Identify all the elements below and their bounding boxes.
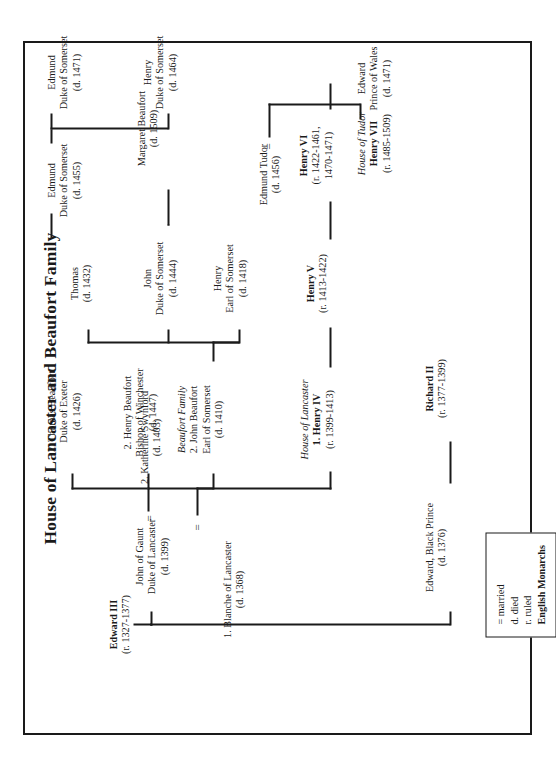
node-edward-iii: Edward III (r. 1327-1377) (107, 569, 132, 679)
connector-john-beaufort-out (212, 341, 214, 361)
node-henry-vi-reign-2: 1470-1471) (322, 109, 334, 201)
label-house-of-lancaster: House of Lancaster (298, 367, 310, 471)
node-richard-ii-reign: (r. 1377-1399) (435, 335, 447, 441)
connector-john-beaufort-bus-lower (212, 341, 239, 343)
node-thomas-beaufort-name: 2. Thomas Beaufort (45, 347, 57, 475)
legend-english-monarchs: English Monarchs (534, 545, 548, 624)
legend-died: d. died (507, 545, 521, 624)
node-black-prince-name: Edward, Black Prince (423, 483, 435, 611)
node-margaret-name: Margaret Beaufort (135, 67, 147, 189)
connector-beaufort-children-bus (71, 487, 147, 489)
node-henry-beaufort-title: Bishop of Winchester (133, 347, 145, 477)
node-richard-ii-name: Richard II (423, 335, 435, 441)
label-beaufort-family: Beaufort Family (175, 361, 187, 477)
node-henry-vi: Henry VI (r. 1422-1461, 1470-1471) (297, 109, 334, 201)
node-henry-earl-death: (d. 1418) (236, 225, 248, 331)
connector-tudor-marriage (268, 103, 270, 137)
node-john-beaufort: Beaufort Family 2. John Beaufort Earl of… (175, 361, 225, 477)
node-edmund-1471-name: Edmund (45, 19, 57, 125)
node-black-prince-death: (d. 1376) (435, 483, 447, 611)
node-edmund-tudor-death: (d. 1456) (269, 113, 281, 235)
node-henry-earl-of-somerset: Henry Earl of Somerset (d. 1418) (211, 225, 248, 331)
node-henry-vii-reign: (r. 1485-1509) (380, 93, 392, 193)
node-margaret-beaufort: Margaret Beaufort (d. 1509) (135, 67, 160, 189)
node-blanche-name: 1. Blanche of Lancaster (221, 523, 233, 655)
node-blanche-of-lancaster: 1. Blanche of Lancaster (d. 1368) (221, 523, 246, 655)
node-henry-vii: House of Tudor Henry VII (r. 1485-1509) (355, 93, 392, 193)
node-john-duke-death: (d. 1444) (166, 225, 178, 331)
node-john-duke-title: Duke of Somerset (153, 225, 165, 331)
node-henry-earl-title: Earl of Somerset (223, 225, 235, 331)
connector-edward-iii-children-bus (150, 623, 450, 625)
node-henry-beaufort-death: (d. 1447) (146, 347, 158, 477)
node-edmund-1455-death: (d. 1455) (70, 127, 82, 233)
connector-to-thomas-1432 (87, 329, 89, 343)
legend-ruled: r. ruled (520, 545, 534, 624)
node-henry-v: Henry V (r. 1413-1422) (304, 239, 329, 327)
node-henry-v-name: Henry V (304, 239, 316, 327)
node-thomas-1432: Thomas (d. 1432) (68, 237, 93, 329)
connector-beaufort-bus-lower (147, 487, 213, 489)
legend-married: = married (493, 545, 507, 624)
connector-blanche-children-bus (196, 487, 331, 489)
node-thomas-1432-death: (d. 1432) (80, 237, 92, 329)
chart-page-frame: House of Lancaster and Beaufort Family E… (23, 41, 532, 735)
node-edward-black-prince: Edward, Black Prince (d. 1376) (423, 483, 448, 611)
node-edmund-1471-title: Duke of Somerset (57, 19, 69, 125)
node-edmund-1471: Edmund Duke of Somerset (d. 1471) (45, 19, 82, 125)
connector-katherine-marriage (147, 487, 149, 511)
legend-box: = married d. died r. ruled English Monar… (485, 532, 556, 637)
connector-edmund-1455-stub (50, 129, 52, 143)
node-john-of-gaunt-death: (d. 1399) (158, 501, 170, 611)
node-richard-ii: Richard II (r. 1377-1399) (423, 335, 448, 441)
marriage-symbol-tudor-margaret: = (262, 143, 273, 149)
node-john-beaufort-name: 2. John Beaufort (187, 361, 199, 477)
connector-blanche-marriage (196, 487, 198, 515)
connector-to-henry-iv (329, 471, 331, 489)
connector-to-john-of-gaunt (150, 611, 152, 625)
node-thomas-1432-name: Thomas (68, 237, 80, 329)
node-edmund-1455-title: Duke of Somerset (57, 127, 69, 233)
node-henry-duke-death: (d. 1464) (166, 19, 178, 125)
node-john-beaufort-title: Earl of Somerset (200, 361, 212, 477)
node-margaret-death: (d. 1509) (147, 67, 159, 189)
connector-tudor-to-henry-vii (268, 103, 360, 105)
node-john-duke-of-somerset: John Duke of Somerset (d. 1444) (141, 225, 178, 331)
connector-henry-v-to-henry-vi (329, 201, 331, 239)
connector-black-prince-to-richard-ii (449, 441, 451, 483)
node-blanche-death: (d. 1368) (233, 523, 245, 655)
node-thomas-beaufort-title: Duke of Exeter (57, 347, 69, 475)
marriage-symbol-gaunt-blanche: = (191, 524, 202, 530)
node-henry-beaufort: 2. Henry Beaufort Bishop of Winchester (… (121, 347, 158, 477)
chart-rotation-container: House of Lancaster and Beaufort Family E… (25, 43, 530, 733)
connector-edward-iii-drop (133, 623, 151, 625)
node-henry-beaufort-name: 2. Henry Beaufort (121, 347, 133, 477)
node-henry-iv-reign: (r. 1399-1413) (323, 367, 335, 471)
node-henry-vi-reign-1: (r. 1422-1461, (309, 109, 321, 201)
marriage-symbol-gaunt-katherine: = (143, 515, 154, 521)
label-house-of-tudor: House of Tudor (355, 93, 367, 193)
node-henry-vii-name: Henry VII (367, 93, 379, 193)
node-henry-vi-name: Henry VI (297, 109, 309, 201)
node-edmund-1471-death: (d. 1471) (70, 19, 82, 125)
node-henry-iv-name: 1. Henry IV (310, 367, 322, 471)
family-tree-canvas: House of Lancaster and Beaufort Family E… (25, 43, 530, 733)
node-john-duke-name: John (141, 225, 153, 331)
node-edward-iii-reign: (r. 1327-1377) (119, 569, 131, 679)
connector-to-black-prince (449, 611, 451, 625)
connector-john-duke-to-margaret (167, 189, 169, 225)
node-edward-iii-name: Edward III (107, 569, 119, 679)
connector-henry-iv-to-henry-v (329, 327, 331, 367)
node-thomas-beaufort: 2. Thomas Beaufort Duke of Exeter (d. 14… (45, 347, 82, 475)
node-john-beaufort-death: (d. 1410) (212, 361, 224, 477)
node-thomas-beaufort-death: (d. 1426) (70, 347, 82, 475)
node-henry-iv: House of Lancaster 1. Henry IV (r. 1399-… (298, 367, 335, 471)
node-henry-v-reign: (r. 1413-1422) (316, 239, 328, 327)
node-henry-earl-name: Henry (211, 225, 223, 331)
